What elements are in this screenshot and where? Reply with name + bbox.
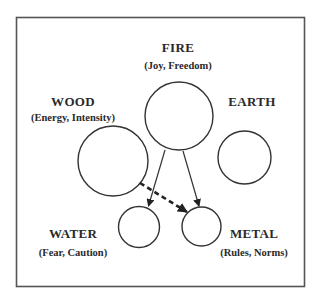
water-subtitle: (Fear, Caution)	[39, 247, 108, 259]
earth-label: EARTH	[228, 94, 275, 109]
wood-label: WOOD	[51, 94, 95, 109]
wood-subtitle: (Energy, Intensity)	[31, 112, 116, 124]
fire-node	[145, 82, 213, 150]
fire-subtitle: (Joy, Freedom)	[144, 60, 212, 72]
metal-subtitle: (Rules, Norms)	[220, 247, 288, 259]
water-label: WATER	[49, 226, 98, 241]
metal-node	[182, 207, 221, 246]
wood-node	[78, 126, 148, 196]
metal-label: METAL	[230, 226, 278, 241]
water-node	[119, 207, 160, 248]
earth-node	[218, 131, 271, 184]
five-elements-diagram: FIRE (Joy, Freedom) WOOD (Energy, Intens…	[0, 0, 320, 302]
fire-label: FIRE	[162, 40, 194, 55]
